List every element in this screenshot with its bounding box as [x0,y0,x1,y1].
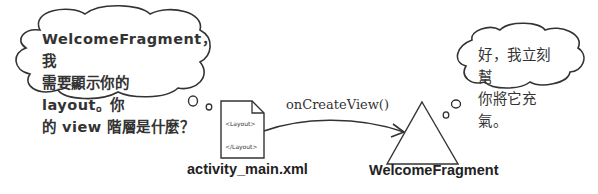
document-close-tag: </Layout> [225,143,257,150]
thought-dot-left-2 [206,104,212,110]
method-label: onCreateView() [286,97,389,112]
thought-dot-right-2 [443,112,449,118]
left-bubble-line: 的 view 階層是什麼？ [42,116,202,138]
left-bubble-line: WelcomeFragment，我 [42,28,202,72]
right-bubble-line: 你將它充氣。 [478,88,558,132]
fragment-label: WelcomeFragment [369,162,498,178]
right-bubble-line: 好，我立刻幫 [478,44,558,88]
document-open-tag: <Layout> [225,120,255,127]
left-bubble-line: 需要顯示你的 layout。你 [42,72,202,116]
thought-dot-right-1 [452,100,461,108]
fragment-triangle-icon [387,102,458,164]
arrow-curve [264,120,404,132]
right-bubble-text: 好，我立刻幫 你將它充氣。 [478,44,558,132]
document-label: activity_main.xml [187,161,308,177]
left-bubble-text: WelcomeFragment，我 需要顯示你的 layout。你 的 view… [42,28,202,138]
